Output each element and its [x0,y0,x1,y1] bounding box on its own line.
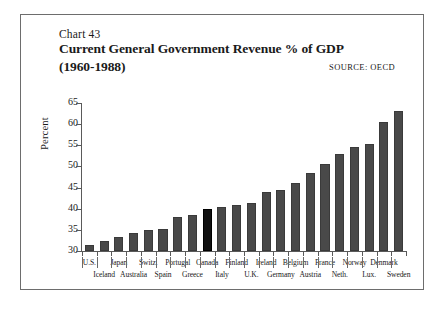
bar-denmark [379,122,388,251]
label-divider [288,257,289,268]
chart-number: Chart 43 [59,27,413,41]
y-axis-tick-label: 30 [54,244,78,256]
y-axis-tick-mark [76,166,81,167]
bar-sweden [394,111,403,251]
source-note: SOURCE: OECD [329,62,395,72]
y-axis-tick-mark [76,251,81,252]
x-axis-tick-mark [406,251,407,256]
y-axis-tick-label: 55 [54,138,78,150]
y-axis-tick-mark [76,209,81,210]
bar-germany [276,190,285,251]
label-divider [82,257,83,268]
y-axis-tick-label: 40 [54,202,78,214]
bar-france [320,164,329,251]
y-axis-title: Percent [39,117,50,150]
bar-switz [144,230,153,251]
label-divider [111,257,112,268]
bar-belgium [291,183,300,252]
bar-series [82,103,406,251]
bar-australia [129,233,138,251]
bar-greece [188,215,197,251]
y-axis-tick-label: 50 [54,159,78,171]
label-divider [377,257,378,268]
label-divider [391,257,392,268]
chart-heading: Chart 43 Current General Government Reve… [59,27,413,73]
bar-finland [232,205,241,252]
x-axis-label-sweden: Sweden [371,270,427,279]
y-axis-tick-mark [76,145,81,146]
bar-norway [350,147,359,251]
y-axis-tick-mark [76,188,81,189]
bar-spain [158,229,167,251]
chart-figure: Chart 43 Current General Government Reve… [20,14,424,290]
x-axis-label-denmark: Denmark [356,258,412,267]
chart-title: Current General Government Revenue % of … [59,41,413,57]
bar-austria [306,173,315,251]
y-axis-tick-mark [76,103,81,104]
chart-period: (1960-1988) [59,59,125,74]
label-divider [170,257,171,268]
label-divider [318,257,319,268]
y-axis-tick-label: 60 [54,117,78,129]
x-axis-labels: U.S.IcelandJapanAustraliaSwitz.SpainPort… [82,256,406,290]
y-axis-tick-label: 35 [54,223,78,235]
y-axis-tick-mark [76,124,81,125]
label-divider [200,257,201,268]
bar-u-k [247,203,256,251]
y-axis-tick-label: 65 [54,96,78,108]
y-axis-tick-label: 45 [54,181,78,193]
bar-ireland [262,192,271,251]
bar-japan [114,237,123,251]
bar-iceland [100,241,109,251]
bar-portugal [173,217,182,251]
chart-subtitle-row: (1960-1988) SOURCE: OECD [59,57,413,73]
label-divider [141,257,142,268]
plot-area: 6560555045403530 [81,103,405,251]
label-divider [229,257,230,268]
label-divider [259,257,260,268]
bar-canada [203,209,212,251]
label-divider [347,257,348,268]
bar-neth [335,154,344,251]
bar-italy [217,207,226,251]
bar-lux [365,144,374,251]
y-axis-tick-mark [76,230,81,231]
